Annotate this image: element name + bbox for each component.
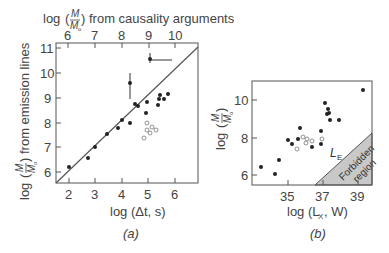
panel-label-b: (b)	[310, 226, 326, 241]
svg-text:6: 6	[44, 165, 51, 180]
top-axis-title: log ( M M o ) from causality arguments	[43, 8, 235, 32]
b-left-axis-title: log ( M M o )	[210, 108, 234, 150]
svg-text:M: M	[210, 113, 221, 122]
svg-text:11: 11	[40, 41, 54, 56]
svg-text:log: log	[17, 183, 32, 200]
top-axis-log: log	[43, 11, 60, 26]
panel-label-a: (a)	[123, 226, 139, 241]
svg-text:from emission lines: from emission lines	[17, 42, 32, 154]
le-label: L	[330, 146, 337, 160]
left-axis-ticks: 11 10 9 8 7 6	[40, 41, 61, 180]
svg-text:M: M	[14, 163, 25, 172]
svg-text:7: 7	[91, 28, 98, 43]
left-axis-title: log ( M M o ) from emission lines	[14, 42, 38, 200]
svg-text:5: 5	[144, 187, 151, 202]
panel-a: log ( M M o ) from causality arguments 6…	[14, 8, 235, 241]
svg-text:7: 7	[44, 140, 51, 155]
svg-text:9: 9	[44, 91, 51, 106]
bottom-axis-title: log (Δt, s)	[110, 204, 166, 219]
svg-text:, W): , W)	[324, 204, 348, 219]
svg-text:39: 39	[350, 189, 364, 204]
top-axis-M: M	[71, 8, 80, 19]
svg-text:10: 10	[234, 93, 248, 108]
svg-text:): )	[81, 11, 85, 26]
svg-text:3: 3	[91, 187, 98, 202]
svg-text:37: 37	[315, 189, 329, 204]
b-left-axis-ticks: 10 8 6	[234, 93, 257, 183]
svg-text:o: o	[228, 111, 234, 115]
bottom-axis-ticks: 2 3 4 5 6	[65, 178, 178, 202]
svg-text:6: 6	[241, 168, 248, 183]
svg-text:log (L: log (L	[287, 204, 320, 219]
svg-text:10: 10	[40, 66, 54, 81]
svg-text:35: 35	[280, 189, 294, 204]
svg-text:10: 10	[168, 28, 182, 43]
equality-line	[56, 47, 198, 183]
panel-b: Forbidden region L E 10 8 6 log ( M M o …	[210, 81, 378, 241]
svg-text:6: 6	[64, 28, 71, 43]
top-axis-text: from causality arguments	[89, 11, 235, 26]
svg-text:): )	[17, 158, 32, 162]
svg-text:o: o	[32, 161, 38, 165]
svg-text:2: 2	[65, 187, 72, 202]
svg-text:6: 6	[171, 187, 178, 202]
svg-text:E: E	[337, 153, 342, 162]
svg-text:4: 4	[118, 187, 125, 202]
svg-text:): )	[213, 108, 228, 112]
svg-text:8: 8	[118, 28, 125, 43]
svg-text:8: 8	[44, 116, 51, 131]
svg-text:8: 8	[241, 131, 248, 146]
figure: log ( M M o ) from causality arguments 6…	[0, 0, 389, 253]
top-axis-ticks: 6 7 8 9 10	[64, 28, 182, 48]
series-a-open	[142, 121, 158, 140]
svg-text:o: o	[78, 26, 82, 32]
svg-text:9: 9	[145, 28, 152, 43]
svg-text:log: log	[213, 133, 228, 150]
series-a-filled	[67, 57, 170, 169]
b-bottom-axis-title: log (L X , W)	[287, 204, 348, 221]
